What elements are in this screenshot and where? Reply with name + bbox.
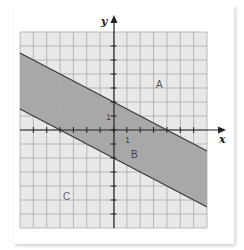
region-a-label: A <box>156 79 163 90</box>
x-tick-label-one: 1 <box>125 135 130 145</box>
region-c-label: C <box>63 191 70 202</box>
y-axis-label: y <box>100 15 109 28</box>
y-tick-label-one: 1 <box>106 112 111 122</box>
y-axis-arrow-icon <box>111 15 118 23</box>
x-axis-label: x <box>218 133 226 146</box>
coordinate-plane: x y 1 1 A B C <box>0 0 244 250</box>
region-b-label: B <box>131 149 138 160</box>
